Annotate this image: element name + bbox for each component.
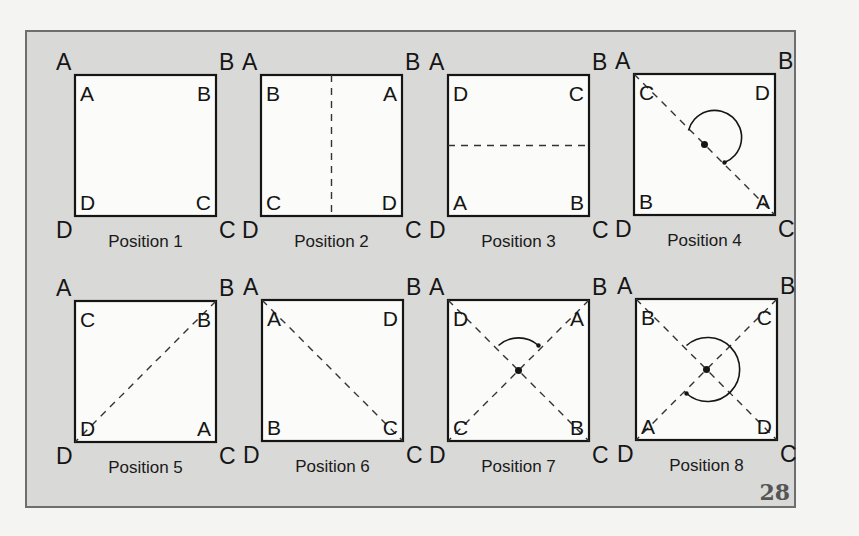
- inner-label: B: [570, 416, 584, 439]
- outer-label: B: [780, 273, 795, 299]
- inner-label: B: [639, 190, 653, 213]
- outer-label: B: [219, 49, 234, 75]
- inner-label: C: [453, 416, 468, 439]
- inner-label: D: [453, 307, 468, 330]
- inner-label: D: [383, 307, 398, 330]
- inner-label: D: [382, 191, 397, 214]
- position-1: ABCDABCDPosition 1: [56, 49, 236, 251]
- outer-label: A: [56, 49, 72, 75]
- position-caption: Position 5: [108, 458, 183, 477]
- position-5: ABCDCBADPosition 5: [56, 275, 236, 477]
- inner-label: C: [569, 82, 584, 105]
- outer-label: D: [56, 443, 73, 469]
- outer-label: D: [429, 442, 446, 468]
- outer-label: C: [219, 443, 236, 469]
- arrowhead-icon: [684, 391, 688, 395]
- inner-label: B: [641, 306, 655, 329]
- inner-label: C: [639, 81, 654, 104]
- outer-label: C: [405, 217, 422, 243]
- inner-label: A: [641, 415, 655, 438]
- inner-label: A: [197, 417, 211, 440]
- inner-label: C: [80, 308, 95, 331]
- outer-label: B: [592, 49, 607, 75]
- outer-label: D: [429, 217, 446, 243]
- arrowhead-icon: [722, 160, 726, 164]
- position-caption: Position 6: [295, 457, 370, 476]
- position-3: ABCDDCBAPosition 3: [429, 49, 609, 251]
- inner-label: B: [197, 82, 211, 105]
- position-caption: Position 4: [667, 231, 742, 250]
- outer-label: C: [592, 442, 609, 468]
- position-caption: Position 8: [669, 456, 744, 475]
- position-8: ABCDBCDAPosition 8: [617, 273, 797, 475]
- arrowhead-icon: [536, 343, 540, 347]
- outer-label: A: [242, 49, 258, 75]
- position-caption: Position 1: [108, 232, 183, 251]
- inner-label: A: [756, 190, 770, 213]
- outer-label: B: [406, 274, 421, 300]
- inner-label: C: [266, 191, 281, 214]
- inner-label: A: [80, 82, 94, 105]
- position-caption: Position 2: [294, 232, 369, 251]
- outer-label: A: [56, 275, 72, 301]
- position-4: ABCDCDABPosition 4: [615, 48, 795, 250]
- position-caption: Position 3: [481, 232, 556, 251]
- inner-label: A: [267, 307, 281, 330]
- rotation-center: [515, 367, 522, 374]
- inner-label: B: [266, 82, 280, 105]
- inner-label: B: [267, 416, 281, 439]
- inner-label: C: [757, 306, 772, 329]
- outer-label: A: [429, 49, 445, 75]
- outer-label: A: [429, 274, 445, 300]
- outer-label: A: [615, 48, 631, 74]
- outer-label: C: [592, 217, 609, 243]
- inner-label: A: [570, 307, 584, 330]
- position-caption: Position 7: [481, 457, 556, 476]
- inner-label: D: [80, 417, 95, 440]
- inner-label: C: [196, 191, 211, 214]
- outer-label: B: [592, 274, 607, 300]
- inner-label: D: [453, 82, 468, 105]
- inner-label: D: [80, 191, 95, 214]
- outer-label: C: [778, 216, 795, 242]
- outer-label: D: [242, 217, 259, 243]
- inner-label: B: [197, 308, 211, 331]
- outer-label: D: [617, 441, 634, 467]
- rotation-center: [701, 141, 708, 148]
- outer-label: B: [405, 49, 420, 75]
- inner-label: B: [570, 191, 584, 214]
- position-2: ABCDBADCPosition 2: [242, 49, 422, 251]
- outer-label: A: [243, 274, 259, 300]
- inner-label: D: [757, 415, 772, 438]
- outer-label: B: [219, 275, 234, 301]
- inner-label: C: [383, 416, 398, 439]
- outer-label: C: [780, 441, 797, 467]
- rotation-center: [703, 366, 710, 373]
- outer-label: C: [406, 442, 423, 468]
- outer-label: B: [778, 48, 793, 74]
- square-symmetry-diagram: ABCDABCDPosition 1ABCDBADCPosition 2ABCD…: [0, 0, 859, 536]
- outer-label: C: [219, 217, 236, 243]
- position-6: ABCDADCBPosition 6: [243, 274, 423, 476]
- outer-label: D: [243, 442, 260, 468]
- position-7: ABCDDABCPosition 7: [429, 274, 609, 476]
- outer-label: D: [615, 216, 632, 242]
- inner-label: A: [383, 82, 397, 105]
- outer-label: A: [617, 273, 633, 299]
- inner-label: D: [755, 81, 770, 104]
- inner-label: A: [453, 191, 467, 214]
- outer-label: D: [56, 217, 73, 243]
- page-number: 28: [759, 479, 790, 505]
